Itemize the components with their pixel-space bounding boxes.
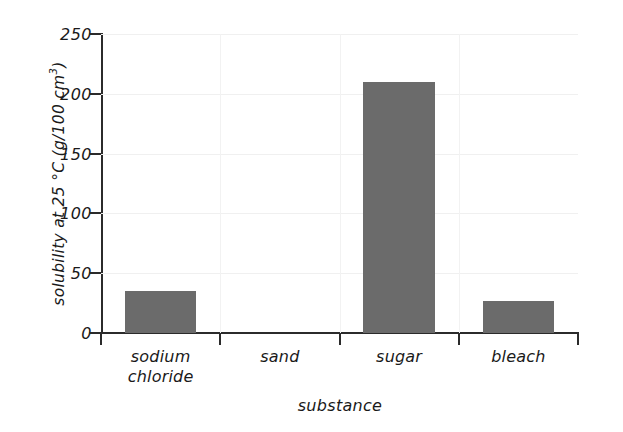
category-label-line: sodium	[131, 347, 191, 366]
category-label-line: sugar	[376, 347, 422, 366]
x-axis-category-label: sugar	[340, 347, 459, 367]
y-axis-tick-label: 100	[46, 204, 92, 223]
y-axis-tick-label: 250	[46, 25, 92, 44]
x-axis-tick	[458, 333, 460, 345]
x-axis-tick	[219, 333, 221, 345]
y-axis-tick	[89, 153, 101, 155]
bar[interactable]	[363, 82, 435, 333]
category-label-line: bleach	[491, 347, 545, 366]
bar-chart: solubility at 25 °C (g/100 cm3) 05010015…	[0, 0, 623, 432]
x-axis-category-label: bleach	[459, 347, 578, 367]
bar[interactable]	[125, 291, 197, 333]
x-axis-category-label: sodiumchloride	[101, 347, 220, 388]
gridline-vertical	[459, 34, 460, 333]
y-axis-tick-label: 0	[46, 324, 92, 343]
plot-area	[101, 34, 578, 333]
y-axis-tick	[89, 93, 101, 95]
y-axis-tick	[89, 212, 101, 214]
x-axis-category-label: sand	[220, 347, 339, 367]
gridline-vertical	[340, 34, 341, 333]
x-axis-tick	[100, 333, 102, 345]
y-axis-tick	[89, 272, 101, 274]
y-axis-tick	[89, 33, 101, 35]
category-label-line: sand	[260, 347, 299, 366]
y-axis-tick-label: 150	[46, 144, 92, 163]
gridline-vertical	[220, 34, 221, 333]
x-axis-title: substance	[101, 396, 579, 415]
category-label-line: chloride	[101, 367, 220, 387]
x-axis-tick	[339, 333, 341, 345]
x-axis-tick	[577, 333, 579, 345]
y-axis-tick-label: 50	[46, 264, 92, 283]
y-axis-tick-label: 200	[46, 84, 92, 103]
bar[interactable]	[483, 301, 555, 333]
y-axis-tick-labels: 050100150200250	[42, 0, 92, 432]
